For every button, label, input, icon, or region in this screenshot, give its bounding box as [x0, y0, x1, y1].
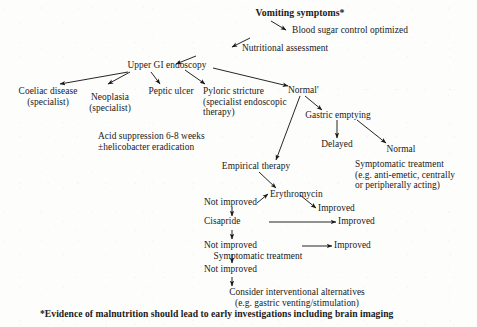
node-not-improved-3: Not improved	[204, 264, 257, 275]
flowchart-canvas: Vomiting symptoms* Blood sugar control o…	[0, 0, 477, 327]
node-neoplasia: Neoplasia (specialist)	[89, 92, 131, 113]
node-empirical-therapy: Empirical therapy	[222, 161, 290, 172]
node-nutritional-assessment: Nutritional assessment	[242, 43, 328, 54]
node-improved-1: Improved	[318, 203, 355, 214]
node-improved-3: Improved	[334, 240, 371, 251]
node-normal-emptying: Normal	[387, 144, 416, 155]
node-coeliac-disease: Coeliac disease (specialist)	[19, 86, 78, 107]
node-pyloric-stricture: Pyloric stricture (specialist endoscopic…	[203, 86, 287, 118]
node-delayed: Delayed	[321, 139, 353, 150]
node-acid-suppression: Acid suppression 6-8 weeks ±helicobacter…	[98, 131, 205, 152]
node-improved-2: Improved	[338, 216, 375, 227]
node-interventional-alternatives: Consider interventional alternatives (e.…	[229, 287, 365, 308]
node-symptomatic-treatment-detail: Symptomatic treatment (e.g. anti-emetic,…	[355, 159, 455, 191]
node-erythromycin: Erythromycin	[270, 189, 323, 200]
node-peptic-ulcer: Peptic ulcer	[148, 86, 193, 97]
node-blood-sugar-control: Blood sugar control optimized	[292, 25, 408, 36]
footnote-malnutrition: *Evidence of malnutrition should lead to…	[40, 309, 393, 320]
node-vomiting-symptoms: Vomiting symptoms*	[256, 8, 345, 19]
node-cisapride: Cisapride	[204, 216, 240, 227]
node-gastric-emptying: Gastric emptying	[305, 110, 371, 121]
node-not-improved-1: Not improved	[204, 197, 257, 208]
node-upper-gi-endoscopy: Upper GI endoscopy	[127, 60, 206, 71]
node-normal-endoscopy: Normal'	[288, 85, 319, 96]
node-symptomatic-treatment-2-text: Symptomatic treatment	[214, 251, 303, 261]
